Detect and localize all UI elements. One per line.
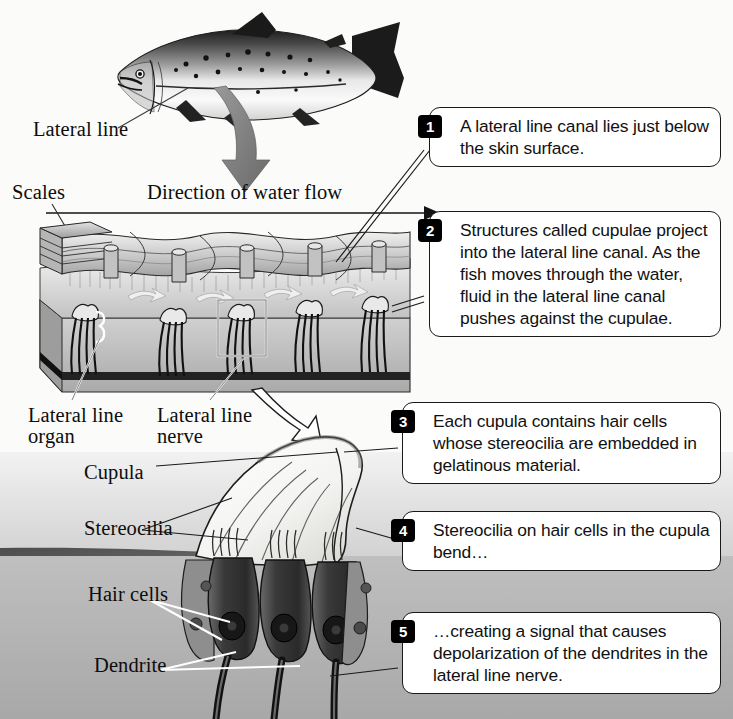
callout-5[interactable]: 5 …creating a signal that causes depolar… [402, 612, 721, 694]
label-dendrite: Dendrite [94, 655, 167, 676]
callout-1-text: A lateral line canal lies just below the… [460, 115, 710, 159]
label-scales: Scales [12, 182, 65, 203]
callout-3-badge: 3 [391, 410, 415, 433]
label-direction-of-water-flow: Direction of water flow [147, 182, 342, 203]
callout-2[interactable]: 2 Structures called cupulae project into… [429, 211, 721, 337]
label-hair-cells: Hair cells [88, 584, 168, 605]
callout-1[interactable]: 1 A lateral line canal lies just below t… [429, 107, 721, 167]
callout-2-text: Structures called cupulae project into t… [460, 219, 710, 329]
callout-4-badge: 4 [391, 519, 415, 542]
callout-4[interactable]: 4 Stereocilia on hair cells in the cupul… [402, 511, 721, 571]
callout-3[interactable]: 3 Each cupula contains hair cells whose … [402, 402, 721, 484]
callout-4-text: Stereocilia on hair cells in the cupula … [433, 519, 710, 563]
label-lateral-line-nerve: Lateral line nerve [157, 405, 252, 447]
fish-illustration [118, 12, 404, 128]
callout-5-badge: 5 [391, 620, 415, 643]
callout-3-text: Each cupula contains hair cells whose st… [433, 410, 710, 476]
label-stereocilia: Stereocilia [84, 518, 173, 539]
label-lateral-line: Lateral line [33, 119, 128, 140]
hair-cells [182, 558, 371, 665]
callout-2-badge: 2 [418, 219, 442, 242]
label-lateral-line-organ: Lateral line organ [28, 405, 123, 447]
callout-1-badge: 1 [418, 115, 442, 138]
callout-5-text: …creating a signal that causes depolariz… [433, 620, 710, 686]
figure-canvas: Lateral line Scales Direction of water f… [0, 0, 733, 719]
skin-cross-section-block [40, 222, 410, 400]
label-cupula: Cupula [84, 462, 144, 483]
